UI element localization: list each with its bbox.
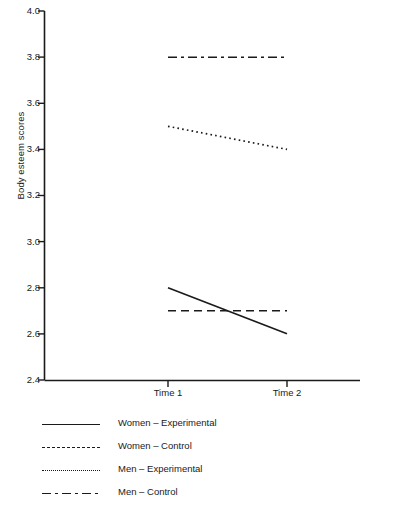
- series-line-men-experimental: [168, 126, 287, 149]
- legend-label-women-experimental: Women – Experimental: [118, 417, 217, 428]
- legend-swatch-dashed-icon: [42, 447, 100, 451]
- legend-swatch-dotted-icon: [42, 470, 100, 474]
- legend-label-men-control: Men – Control: [118, 486, 178, 497]
- chart-figure: Body esteem scores 4.0 3.8 3.6 3.4 3.2 3…: [0, 0, 406, 507]
- legend-label-men-experimental: Men – Experimental: [118, 463, 202, 474]
- x-axis-ticks: [168, 381, 287, 388]
- legend-item-men-control: Men – Control: [42, 485, 342, 507]
- legend-item-women-experimental: Women – Experimental: [42, 416, 342, 439]
- legend-swatch-solid-icon: [42, 424, 100, 428]
- legend-item-women-control: Women – Control: [42, 439, 342, 462]
- legend-swatch-dashdot-icon: [42, 493, 100, 494]
- legend-item-men-experimental: Men – Experimental: [42, 462, 342, 485]
- legend-label-women-control: Women – Control: [118, 440, 192, 451]
- y-axis-ticks: [38, 11, 45, 380]
- chart-legend: Women – Experimental Women – Control Men…: [42, 416, 342, 507]
